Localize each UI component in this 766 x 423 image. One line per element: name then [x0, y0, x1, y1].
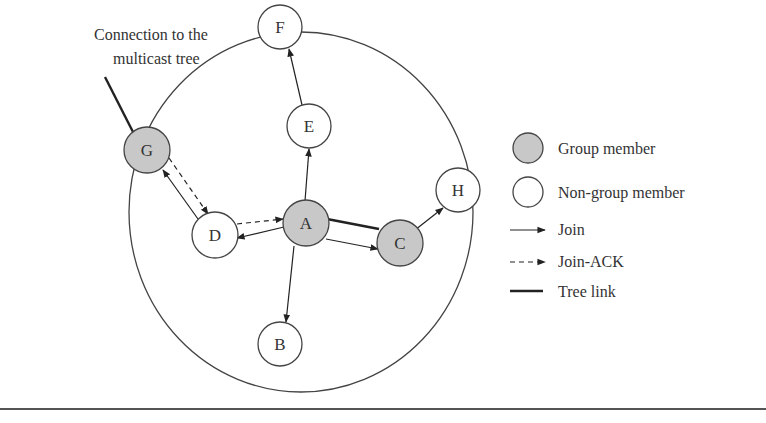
legend-tree-link-label: Tree link	[558, 283, 616, 300]
join-e-f	[289, 49, 302, 105]
node-g: G	[124, 127, 170, 173]
join-d-g	[163, 170, 198, 219]
svg-text:B: B	[274, 335, 285, 354]
legend-join-ack-label: Join-ACK	[558, 253, 624, 270]
node-b: B	[258, 322, 302, 366]
bottom-divider	[0, 408, 766, 410]
node-d: D	[192, 212, 238, 258]
multicast-diagram: Connection to the multicast tree F E G A…	[0, 0, 766, 423]
svg-text:F: F	[275, 18, 284, 37]
legend: Group member Non-group member Join Join-…	[510, 133, 685, 300]
svg-text:C: C	[394, 234, 405, 253]
svg-text:E: E	[304, 117, 314, 136]
join-a-d	[237, 227, 284, 238]
legend-nongroup-icon	[513, 177, 543, 207]
svg-text:G: G	[141, 141, 153, 160]
caption-line-2: multicast tree	[113, 50, 200, 67]
join-ack-d-a	[237, 219, 283, 224]
legend-join-label: Join	[558, 221, 585, 238]
legend-nongroup-label: Non-group member	[558, 184, 685, 202]
join-a-e	[305, 149, 309, 201]
node-a: A	[283, 200, 329, 246]
node-c: C	[377, 220, 423, 266]
external-tree-link	[105, 77, 133, 132]
svg-text:A: A	[300, 214, 313, 233]
legend-group-label: Group member	[558, 140, 656, 158]
join-c-h	[415, 208, 443, 230]
svg-text:D: D	[209, 226, 221, 245]
join-a-c	[326, 239, 378, 249]
node-f: F	[258, 5, 302, 49]
node-h: H	[436, 168, 480, 212]
tree-link-a-c	[327, 219, 379, 229]
caption-line-1: Connection to the	[94, 26, 208, 43]
node-e: E	[287, 104, 331, 148]
join-a-b	[286, 246, 294, 322]
svg-text:H: H	[452, 181, 464, 200]
legend-group-icon	[513, 133, 543, 163]
